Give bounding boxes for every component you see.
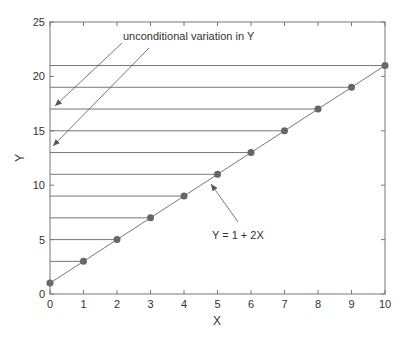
x-tick-label: 5 [214, 298, 220, 310]
annotation-unconditional-variation: unconditional variation in Y [53, 30, 255, 146]
data-point [80, 258, 87, 265]
data-point [315, 106, 322, 113]
data-point [147, 214, 154, 221]
data-point [181, 193, 188, 200]
data-point [281, 127, 288, 134]
data-point [248, 149, 255, 156]
y-tick-label: 15 [33, 125, 45, 137]
x-tick-label: 2 [114, 298, 120, 310]
annotation-regression-equation: Y = 1 + 2X [211, 184, 264, 241]
y-tick-label: 5 [39, 234, 45, 246]
x-tick-label: 3 [147, 298, 153, 310]
x-tick-label: 7 [281, 298, 287, 310]
y-tick-label: 0 [39, 288, 45, 300]
annotation-equation-text: Y = 1 + 2X [212, 229, 264, 241]
x-tick-label: 6 [248, 298, 254, 310]
x-tick-label: 4 [181, 298, 187, 310]
x-tick-label: 1 [80, 298, 86, 310]
y-axis-ticks: 0510152025 [33, 16, 385, 300]
y-axis-label: Y [13, 154, 27, 162]
y-tick-label: 25 [33, 16, 45, 28]
plot-area-border [50, 22, 385, 294]
data-point [114, 236, 121, 243]
chart: 012345678910 0510152025 X Y unconditiona… [0, 0, 408, 341]
data-point [348, 84, 355, 91]
x-tick-label: 9 [348, 298, 354, 310]
x-tick-label: 0 [47, 298, 53, 310]
y-tick-label: 10 [33, 179, 45, 191]
y-tick-label: 20 [33, 70, 45, 82]
x-axis-label: X [213, 314, 221, 328]
arrow-icon [211, 184, 238, 222]
arrow-icon [55, 43, 122, 106]
axes-frame [50, 22, 385, 294]
data-point [214, 171, 221, 178]
x-tick-label: 10 [379, 298, 391, 310]
annotation-variation-text: unconditional variation in Y [123, 30, 255, 42]
x-tick-label: 8 [315, 298, 321, 310]
